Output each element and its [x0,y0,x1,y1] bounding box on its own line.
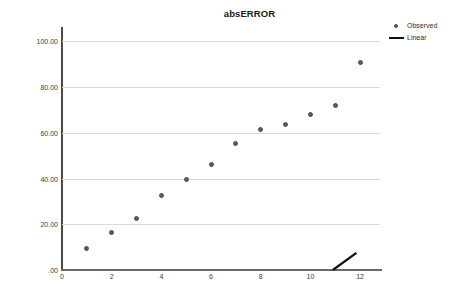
x-tick-label: 12 [348,273,372,280]
legend: ObservedLinear [388,20,458,44]
legend-item[interactable]: Linear [388,32,458,43]
legend-key [388,24,404,28]
legend-line-icon [389,37,404,39]
chart-container: absERROR 100.0080.0060.0040.0020.00.00 0… [0,0,459,300]
legend-dot-icon [394,24,398,28]
x-axis-ticks: 024681012 [0,0,459,300]
x-tick-label: 10 [298,273,322,280]
legend-item[interactable]: Observed [388,20,458,31]
x-tick-label: 2 [100,273,124,280]
x-tick-label: 8 [249,273,273,280]
x-tick-label: 4 [149,273,173,280]
legend-key [388,37,404,39]
legend-label: Observed [407,22,437,29]
x-tick-label: 6 [199,273,223,280]
legend-label: Linear [407,34,426,41]
x-tick-label: 0 [50,273,74,280]
